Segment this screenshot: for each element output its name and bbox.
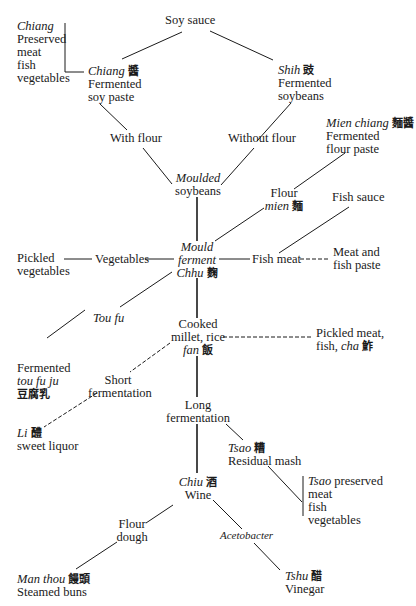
line-dough-manthou — [76, 542, 117, 569]
node-shih: Shih 豉 Fermented soybeans — [278, 64, 331, 103]
node-acetobacter: Acetobacter — [220, 529, 273, 542]
line-soysauce-shih — [210, 31, 273, 60]
node-fish-meat: Fish meat — [252, 253, 301, 266]
node-tou-fu: Tou fu — [93, 312, 124, 325]
node-flour-mien: Flour mien 麵 — [264, 187, 304, 213]
node-man-thou: Man thou 饅頭 Steamed buns — [17, 573, 90, 599]
line-chiang-withflour — [100, 104, 127, 130]
node-fish-sauce: Fish sauce — [332, 191, 384, 204]
node-tsao-preserved: Tsao preserved meat fish vegetables — [308, 475, 383, 527]
line-chiu-acetobacter — [213, 500, 242, 529]
node-mien-chiang: Mien chiang 麵醬 Fermented flour paste — [326, 117, 414, 156]
node-meat-fish-paste: Meat and fish paste — [333, 246, 381, 272]
node-fermented-toufuju: Fermented tou fu ju 豆腐乳 — [17, 362, 70, 401]
fermentation-diagram: Soy sauce Chiang Preserved meat fish veg… — [0, 0, 416, 606]
node-tshu: Tshu 醋 Vinegar — [285, 570, 325, 596]
node-pickled-vegetables: Pickled vegetables — [17, 252, 70, 278]
node-cooked-millet: Cooked millet, rice fan 飯 — [170, 318, 226, 357]
node-vegetables: Vegetables — [95, 253, 149, 266]
node-pickled-meat: Pickled meat, fish, cha 鮓 — [316, 327, 384, 353]
node-moulded-soybeans: Moulded soybeans — [170, 172, 226, 198]
node-chiang: Chiang 醬 Fermented soy paste — [88, 65, 141, 104]
node-tsao: Tsao 糟 Residual mash — [228, 442, 301, 468]
node-with-flour: With flour — [110, 132, 162, 145]
node-without-flour: Without flour — [228, 132, 296, 145]
line-long-tsao — [226, 424, 243, 440]
line-withflour-moulded — [143, 148, 172, 184]
node-soy-sauce: Soy sauce — [165, 14, 215, 27]
line-flour-mould — [215, 208, 264, 241]
line-soysauce-chiang — [122, 32, 182, 59]
node-long-fermentation: Long fermentation — [165, 399, 231, 425]
line-acetobacter-tshu — [254, 543, 280, 570]
node-short-fermentation: Short fermentation — [88, 374, 148, 400]
node-mould-ferment: Mould ferment Chhu 麴 — [172, 241, 222, 280]
node-flour-dough: Flour dough — [112, 518, 152, 544]
line-mould-toufu — [120, 272, 172, 307]
node-li: Li 醴 sweet liquor — [17, 427, 78, 453]
line-tsao-preserved — [268, 466, 302, 502]
line-cooked-short — [130, 343, 170, 372]
line-toufu-fermented — [47, 310, 85, 338]
line-mienchiang-flour — [294, 153, 345, 189]
node-chiang-preserved: Chiang Preserved meat fish vegetables — [17, 20, 70, 85]
node-chiu: Chiu 酒 Wine — [176, 476, 220, 502]
